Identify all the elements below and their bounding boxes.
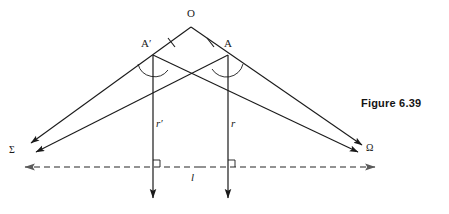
point-label-o: O [187, 8, 195, 19]
normal-label-r-prime: r′ [156, 118, 163, 129]
point-label-sigma: Σ [9, 145, 15, 155]
right-angle-mark-right-icon [228, 160, 235, 167]
line-label-l: l [191, 172, 194, 183]
point-label-a-prime: A′ [141, 38, 151, 49]
point-label-a: A [224, 38, 232, 49]
normal-label-r: r [231, 118, 235, 129]
ray-o-to-omega [191, 27, 362, 145]
figure-caption: Figure 6.39 [361, 97, 421, 109]
ray-a-prime-to-omega [153, 55, 358, 152]
right-angle-mark-left-icon [153, 160, 160, 167]
figure-container: O A′ A Σ Ω r′ r l Figure 6.39 [0, 0, 449, 214]
point-label-omega: Ω [366, 143, 373, 153]
ray-o-to-sigma [31, 27, 191, 143]
